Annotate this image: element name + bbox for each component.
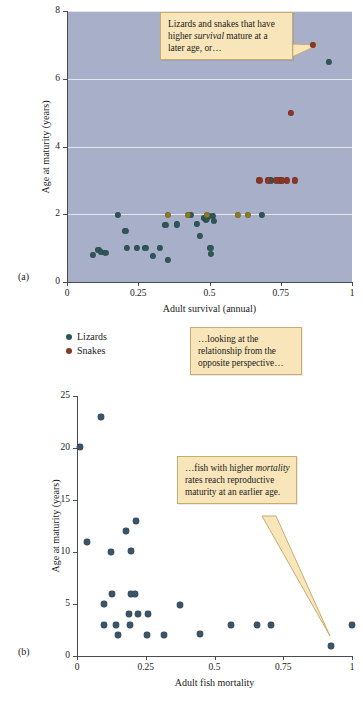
y-axis-title: Age at maturity (years) (41, 100, 51, 193)
callout-b-emphasis: mortality (256, 463, 290, 473)
x-axis-tick (77, 656, 78, 660)
y-axis-tick-label: 5 (65, 599, 70, 609)
panel-label: (b) (18, 647, 30, 657)
legend-label-lizards: Lizards (77, 332, 107, 342)
y-axis-tick-label: 2 (55, 210, 60, 220)
legend-dot-snakes (66, 348, 72, 354)
data-point-fish (98, 414, 104, 420)
data-point-fish (113, 622, 119, 628)
x-axis-tick (210, 282, 211, 286)
y-axis-tick-label: 8 (55, 6, 60, 16)
legend-dot-lizards (66, 334, 72, 340)
data-point-fish (101, 601, 107, 607)
y-axis-tick (73, 448, 77, 449)
y-axis-tick (73, 552, 77, 553)
x-axis-tick (215, 656, 216, 660)
data-point-fish (254, 622, 260, 628)
data-point-fish (132, 591, 138, 597)
callout-middle-text: …looking at the relationship from the op… (198, 334, 283, 368)
figure-root: 0246800.250.50.751Adult survival (annual… (0, 0, 363, 709)
x-axis-tick (281, 282, 282, 286)
callout-b-post: rates reach reproductive maturity at an … (185, 475, 280, 497)
x-axis-tick (146, 656, 147, 660)
data-point-fish (115, 632, 121, 638)
data-point-fish (328, 643, 334, 649)
callout-b-pre: …fish with higher (185, 463, 256, 473)
data-point-fish (349, 622, 355, 628)
data-point-fish (161, 632, 167, 638)
x-axis-tick-label: 0.75 (272, 289, 289, 299)
y-axis-tick-label: 10 (61, 547, 71, 557)
gridline (67, 79, 352, 80)
x-axis-tick-label: 0.75 (275, 663, 292, 673)
data-point-fish (177, 602, 183, 608)
y-axis-tick-label: 15 (61, 495, 71, 505)
x-axis-tick-label: 0.25 (130, 289, 147, 299)
y-axis-line (77, 396, 78, 656)
callout-middle: …looking at the relationship from the op… (190, 327, 302, 375)
y-axis-title: Age at maturity (years) (51, 479, 61, 572)
data-point-fish (108, 549, 114, 555)
gridline (67, 147, 352, 148)
data-point-fish (84, 539, 90, 545)
data-point-fish (135, 611, 141, 617)
y-axis-tick-label: 6 (55, 74, 60, 84)
y-axis-tick-label: 0 (55, 277, 60, 287)
x-axis-tick-label: 1 (350, 289, 355, 299)
x-axis-tick-label: 0.5 (209, 663, 221, 673)
y-axis-tick (63, 11, 67, 12)
x-axis-tick (352, 282, 353, 286)
data-point-fish (109, 591, 115, 597)
panel-b: 051015202500.250.50.751Adult fish mortal… (0, 380, 363, 709)
data-point-fish (128, 548, 134, 554)
x-axis-tick (352, 656, 353, 660)
x-axis-tick (283, 656, 284, 660)
legend-panel-a: Lizards Snakes (66, 330, 186, 358)
x-axis-tick-label: 0 (75, 663, 80, 673)
x-axis-title: Adult fish mortality (175, 678, 254, 688)
data-point-fish (101, 622, 107, 628)
legend-item-lizards: Lizards (66, 330, 186, 344)
data-point-fish (228, 622, 234, 628)
x-axis-tick (138, 282, 139, 286)
callout-a-emphasis: survival (194, 31, 224, 41)
x-axis-tick-label: 0 (65, 289, 70, 299)
data-point-fish (126, 611, 132, 617)
x-axis-tick (67, 282, 68, 286)
callout-panel-a: Lizards and snakes that have higher surv… (160, 12, 293, 60)
x-axis-tick-label: 1 (350, 663, 355, 673)
data-point-fish (197, 631, 203, 637)
data-point-fish (144, 632, 150, 638)
callout-panel-b: …fish with higher mortality rates reach … (177, 456, 297, 504)
data-point-fish (123, 528, 129, 534)
y-axis-tick (73, 500, 77, 501)
legend-label-snakes: Snakes (77, 346, 105, 356)
y-axis-tick-label: 20 (61, 443, 71, 453)
y-axis-tick (63, 214, 67, 215)
data-point-fish (145, 611, 151, 617)
x-axis-tick-label: 0.25 (137, 663, 154, 673)
y-axis-tick (63, 147, 67, 148)
y-axis-tick-label: 0 (65, 651, 70, 661)
x-axis-title: Adult survival (annual) (163, 304, 256, 314)
y-axis-tick (73, 604, 77, 605)
y-axis-tick (73, 396, 77, 397)
legend-item-snakes: Snakes (66, 344, 186, 358)
data-point-fish (77, 444, 83, 450)
y-axis-line (67, 11, 68, 282)
y-axis-tick (63, 79, 67, 80)
data-point-fish (268, 622, 274, 628)
y-axis-tick-label: 4 (55, 142, 60, 152)
data-point-fish (127, 622, 133, 628)
y-axis-tick-label: 25 (61, 391, 71, 401)
data-point-fish (133, 518, 139, 524)
x-axis-tick-label: 0.5 (204, 289, 216, 299)
panel-label: (a) (18, 272, 29, 282)
